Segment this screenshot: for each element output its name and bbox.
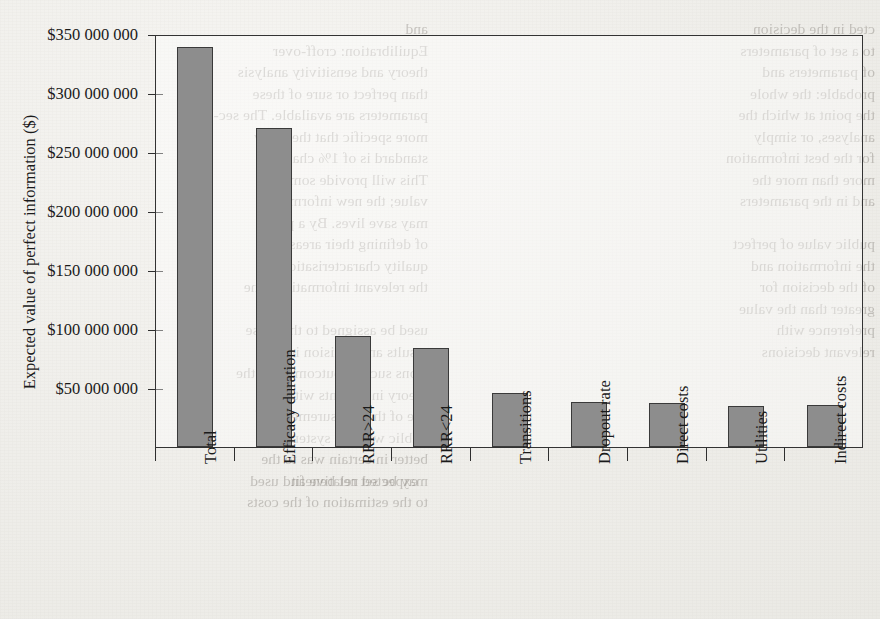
x-axis-tick xyxy=(627,448,628,461)
x-axis-tick-label: RRR>24 xyxy=(359,405,379,464)
y-axis-tick-label: $100 000 000 xyxy=(47,320,138,340)
y-axis-tick-label: $300 000 000 xyxy=(47,84,138,104)
x-axis-tick xyxy=(234,448,235,461)
y-axis-tick-label: $200 000 000 xyxy=(47,202,138,222)
bar xyxy=(177,47,213,447)
evpi-bar-chart: Expected value of perfect information ($… xyxy=(0,0,880,619)
x-axis-tick xyxy=(548,448,549,461)
y-axis-tick-label: $50 000 000 xyxy=(56,379,139,399)
y-axis-tick-label: $250 000 000 xyxy=(47,143,138,163)
x-axis-tick xyxy=(706,448,707,461)
x-axis-tick-label: Indirect costs xyxy=(831,376,851,464)
x-axis-tick-label: Efficacy duration xyxy=(280,349,300,464)
x-axis-tick xyxy=(784,448,785,461)
x-axis-tick-label: Total xyxy=(201,430,221,464)
y-axis-tick-label: $350 000 000 xyxy=(47,25,138,45)
x-axis-tick xyxy=(312,448,313,461)
y-axis-tick-label: $150 000 000 xyxy=(47,261,138,281)
x-axis-tick-label: Transitions xyxy=(516,390,536,464)
x-axis-tick xyxy=(470,448,471,461)
x-axis-tick xyxy=(155,448,156,461)
x-axis-tick-label: RRR<24 xyxy=(437,405,457,464)
x-axis-tick-label: Utilities xyxy=(752,411,772,464)
plot-frame xyxy=(155,35,863,448)
x-axis-tick-label: Direct costs xyxy=(673,386,693,464)
x-axis-tick-label: Dropout rate xyxy=(595,380,615,464)
x-axis-tick xyxy=(391,448,392,461)
